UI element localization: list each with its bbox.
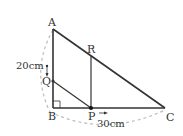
label-a: A — [47, 16, 57, 29]
label-b: B — [48, 110, 56, 123]
side-ac — [53, 29, 165, 108]
measure-bc: 30cm — [97, 118, 125, 129]
measure-ab: 20cm — [16, 60, 44, 71]
label-p: P — [88, 110, 96, 123]
label-c: C — [166, 111, 174, 124]
right-angle-marker — [53, 101, 60, 108]
label-r: R — [87, 43, 96, 56]
point-q-dot — [51, 79, 54, 82]
segment-pq — [53, 81, 91, 108]
label-q: Q — [42, 75, 51, 88]
p-arrow-head-icon — [104, 112, 108, 115]
geometry-diagram: A B C P Q R 20cm 30cm — [0, 0, 183, 136]
measure-tick-ab — [46, 65, 48, 67]
